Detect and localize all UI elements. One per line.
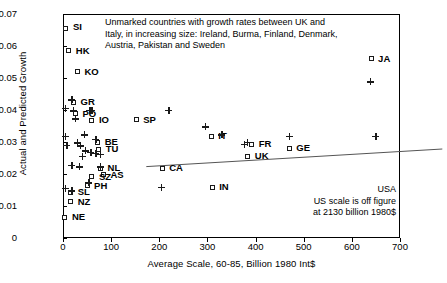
predicted-growth-marker bbox=[86, 107, 93, 114]
actual-growth-marker bbox=[287, 146, 292, 151]
predicted-growth-marker bbox=[158, 184, 165, 191]
y-tick-label: 0.05 bbox=[0, 73, 17, 83]
actual-growth-marker bbox=[89, 174, 94, 179]
predicted-growth-marker bbox=[92, 136, 99, 143]
predicted-growth-marker bbox=[72, 115, 79, 122]
country-code-label: KO bbox=[84, 67, 98, 77]
x-tick-label: 400 bbox=[236, 242, 276, 252]
predicted-growth-marker bbox=[165, 107, 172, 114]
predicted-growth-marker bbox=[70, 107, 77, 114]
x-tick-label: 700 bbox=[380, 242, 420, 252]
x-tick-mark bbox=[256, 238, 257, 242]
predicted-growth-marker bbox=[63, 142, 70, 149]
predicted-growth-marker bbox=[76, 163, 83, 170]
y-tick-label: 0.07 bbox=[0, 9, 17, 19]
x-tick-mark bbox=[111, 238, 112, 242]
predicted-growth-marker bbox=[367, 78, 374, 85]
usa-note-line2: US scale is off figure bbox=[268, 196, 396, 208]
x-tick-mark bbox=[400, 238, 401, 242]
country-code-label: NZ bbox=[78, 197, 91, 207]
predicted-growth-marker bbox=[62, 105, 69, 112]
note-main-line3: Austria, Pakistan and Sweden bbox=[105, 40, 337, 52]
x-tick-mark bbox=[159, 238, 160, 242]
predicted-growth-marker bbox=[68, 96, 75, 103]
actual-growth-marker bbox=[245, 154, 250, 159]
y-tick-label: 0.04 bbox=[0, 105, 17, 115]
predicted-growth-marker bbox=[218, 131, 225, 138]
x-tick-mark bbox=[207, 238, 208, 242]
country-code-label: SI bbox=[73, 22, 82, 32]
y-tick-label: 0.01 bbox=[0, 201, 17, 211]
y-tick-mark bbox=[63, 46, 67, 47]
country-code-label: IO bbox=[99, 115, 109, 125]
x-tick-label: 300 bbox=[187, 242, 227, 252]
predicted-growth-marker bbox=[85, 179, 92, 186]
y-tick-mark bbox=[63, 206, 67, 207]
y-tick-label: 0 bbox=[0, 233, 17, 243]
predicted-growth-marker bbox=[97, 163, 104, 170]
country-code-label: CA bbox=[169, 163, 183, 173]
x-tick-mark bbox=[352, 238, 353, 242]
y-tick-label: 0.02 bbox=[0, 169, 17, 179]
country-code-label: FR bbox=[259, 139, 272, 149]
predicted-growth-marker bbox=[68, 187, 75, 194]
actual-growth-marker bbox=[160, 166, 165, 171]
actual-growth-marker bbox=[134, 117, 139, 122]
y-tick-mark bbox=[63, 78, 67, 79]
actual-growth-marker bbox=[369, 56, 374, 61]
country-code-label: PH bbox=[94, 181, 107, 191]
x-tick-label: 600 bbox=[332, 242, 372, 252]
country-code-label: NE bbox=[72, 212, 85, 222]
predicted-growth-marker bbox=[286, 133, 293, 140]
y-axis-title: Actual and Predicted Growth bbox=[17, 24, 28, 204]
country-code-label: TU bbox=[106, 144, 119, 154]
usa-label: USA bbox=[268, 184, 396, 196]
y-tick-label: 0.06 bbox=[0, 41, 17, 51]
predicted-growth-marker bbox=[372, 133, 379, 140]
country-code-label: SP bbox=[143, 115, 156, 125]
x-tick-label: 200 bbox=[139, 242, 179, 252]
usa-offscale-note: USA US scale is off figure at 2130 billi… bbox=[268, 184, 396, 219]
actual-growth-marker bbox=[62, 215, 67, 220]
x-axis-title: Average Scale, 60-85, Billion 1980 Int$ bbox=[63, 258, 400, 269]
x-tick-label: 500 bbox=[284, 242, 324, 252]
x-tick-mark bbox=[63, 238, 64, 242]
predicted-growth-marker bbox=[68, 162, 75, 169]
predicted-growth-marker bbox=[97, 151, 104, 158]
actual-growth-marker bbox=[210, 185, 215, 190]
actual-growth-marker bbox=[63, 26, 68, 31]
actual-growth-marker bbox=[89, 118, 94, 123]
y-tick-mark bbox=[63, 174, 67, 175]
country-code-label: GR bbox=[81, 97, 95, 107]
predicted-growth-marker bbox=[202, 123, 209, 130]
country-code-label: GE bbox=[296, 143, 310, 153]
actual-growth-marker bbox=[66, 48, 71, 53]
country-code-label: HK bbox=[76, 46, 90, 56]
unmarked-countries-note: Unmarked countries with growth rates bet… bbox=[105, 17, 337, 52]
x-tick-label: 100 bbox=[91, 242, 131, 252]
trend-line bbox=[127, 29, 447, 253]
actual-growth-marker bbox=[75, 69, 80, 74]
y-tick-mark bbox=[63, 14, 67, 15]
predicted-growth-marker bbox=[81, 131, 88, 138]
predicted-growth-marker bbox=[241, 141, 248, 148]
country-code-label: JA bbox=[378, 54, 390, 64]
y-tick-label: 0.03 bbox=[0, 137, 17, 147]
country-code-label: IN bbox=[219, 182, 229, 192]
x-tick-label: 0 bbox=[43, 242, 83, 252]
country-code-label: UK bbox=[255, 151, 269, 161]
note-main-line1: Unmarked countries with growth rates bet… bbox=[105, 17, 337, 29]
usa-note-line3: at 2130 billion 1980$ bbox=[268, 207, 396, 219]
predicted-growth-marker bbox=[62, 133, 69, 140]
actual-growth-marker bbox=[209, 134, 214, 139]
predicted-growth-marker bbox=[79, 153, 86, 160]
actual-growth-marker bbox=[68, 199, 73, 204]
x-tick-mark bbox=[304, 238, 305, 242]
note-main-line2: Italy, in increasing size: Ireland, Burm… bbox=[105, 29, 337, 41]
country-code-label: AS bbox=[110, 170, 123, 180]
